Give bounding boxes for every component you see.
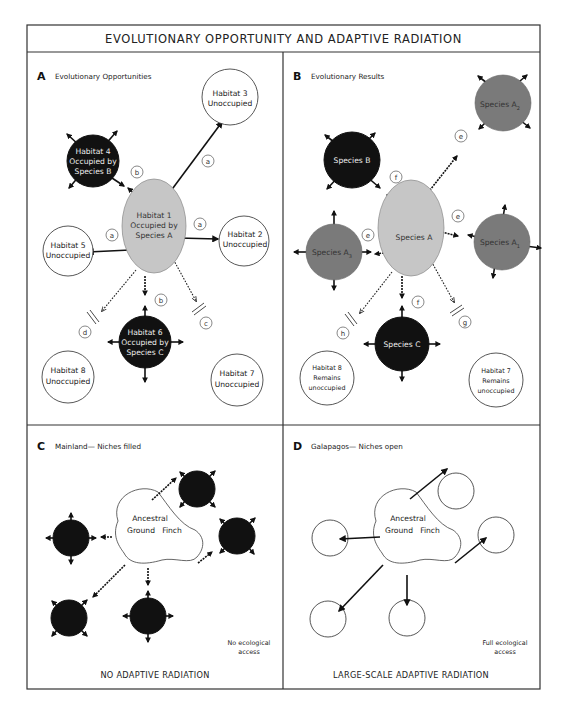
figure-title: EVOLUTIONARY OPPORTUNITY AND ADAPTIVE RA… (105, 32, 462, 46)
arrow-label-f-to-c: f (412, 296, 424, 308)
dashed-arrow-to-habitat8 (360, 272, 392, 313)
arrow-label-g-to-h7: g (459, 316, 471, 328)
panel-a: A Evolutionary Opportunities Habitat 1 O… (37, 69, 269, 406)
barrier-g (450, 305, 464, 316)
access-note: No ecological (228, 639, 271, 647)
panel-c: C Mainland— Niches filled Ancestral Grou… (37, 440, 271, 680)
arrow-to-niche-bottom-left (93, 565, 125, 597)
svg-text:g: g (463, 319, 467, 327)
habitat-8-status: Unoccupied (46, 377, 91, 386)
access-note-line2: access (494, 648, 516, 656)
arrow-to-habitat5 (88, 250, 130, 252)
svg-text:b: b (135, 169, 140, 177)
habitat-1-label-line3: Species A (136, 231, 174, 240)
habitat-8-status-line1: Remains (313, 374, 341, 382)
arrow-to-niche-top (152, 478, 176, 500)
habitat-7-status-line1: Remains (482, 377, 510, 385)
habitat-8-label: Habitat 8 (312, 364, 342, 372)
svg-text:c: c (204, 320, 208, 328)
habitat-8-label: Habitat 8 (50, 366, 85, 375)
svg-text:a: a (110, 232, 114, 240)
svg-text:e: e (366, 232, 370, 240)
habitat-8-status-line2: unoccupied (309, 384, 346, 392)
arrow-label-b-to-h4: b (131, 166, 143, 178)
niche-open-top (438, 473, 474, 509)
species-a2-label: Species A2 (480, 100, 520, 111)
niche-filled-right (219, 518, 255, 554)
diagram-canvas: EVOLUTIONARY OPPORTUNITY AND ADAPTIVE RA… (0, 0, 564, 719)
panel-d: D Galapagos— Niches open Ancestral Groun… (293, 440, 528, 680)
ancestral-finch-label: Ancestral (390, 514, 426, 523)
niche-open-bottom (389, 600, 425, 636)
habitat-6-label-line2: Occupied by (121, 338, 169, 347)
access-note-line2: access (238, 648, 260, 656)
species-a1-label: Species A1 (480, 238, 520, 249)
species-c-label: Species C (384, 340, 421, 349)
ancestral-finch-label-line2: Ground (127, 526, 155, 535)
ancestral-finch-label-line3: Finch (420, 526, 440, 535)
arrow-label-b-to-h6: b (155, 294, 167, 306)
dashed-arrow-to-habitat7 (172, 257, 196, 301)
niche-filled-left (46, 513, 96, 564)
niche-filled-bottom (123, 591, 173, 642)
panel-c-heading: Mainland— Niches filled (55, 442, 141, 451)
niche-open-right (478, 517, 514, 553)
svg-text:b: b (159, 297, 164, 305)
frame (27, 25, 540, 689)
habitat-4-label: Habitat 4 (75, 147, 110, 156)
species-a-node (378, 180, 444, 276)
habitat-1-label-line2: Occupied by (130, 221, 178, 230)
habitat-7-status: Unoccupied (215, 380, 260, 389)
species-a3-label: Species A3 (312, 248, 352, 259)
ancestral-finch-label: Ancestral (132, 514, 168, 523)
habitat-4-label-line3: Species B (75, 167, 112, 176)
barrier-c (192, 303, 206, 315)
niche-filled-top (179, 471, 215, 507)
arrow-label-d-to-h8: d (79, 326, 91, 338)
habitat-2-label: Habitat 2 (227, 230, 262, 239)
panel-d-letter: D (293, 440, 302, 453)
arrow-label-h-to-h8: h (337, 327, 349, 339)
arrow-label-e-to-a1: e (452, 210, 464, 222)
habitat-4-label-line2: Occupied by (69, 157, 117, 166)
habitat-3-status: Unoccupied (208, 99, 253, 108)
ancestral-finch-label-line2: Ground (385, 526, 413, 535)
species-b-label: Species B (334, 156, 371, 165)
panel-b-heading: Evolutionary Results (311, 72, 385, 81)
panel-c-footer: NO ADAPTIVE RADIATION (100, 670, 209, 680)
niche-filled-bottom-left (51, 600, 87, 636)
panel-d-heading: Galapagos— Niches open (311, 442, 403, 451)
habitat-7-status-line2: unoccupied (478, 387, 515, 395)
arrow-to-niche-bottom-left (339, 565, 383, 611)
habitat-6-label: Habitat 6 (127, 328, 162, 337)
barrier-h (345, 312, 357, 326)
habitat-7-label: Habitat 7 (219, 369, 254, 378)
habitat-5-label: Habitat 5 (50, 241, 85, 250)
svg-text:a: a (206, 158, 210, 166)
svg-text:a: a (198, 221, 202, 229)
panel-a-letter: A (37, 70, 46, 83)
panel-a-heading: Evolutionary Opportunities (55, 72, 152, 81)
panel-b-letter: B (293, 70, 301, 83)
panel-c-letter: C (37, 440, 45, 453)
dashed-arrow-to-habitat7 (430, 259, 454, 302)
habitat-7-label: Habitat 7 (481, 367, 511, 375)
barrier-d (87, 310, 99, 324)
ancestral-finch-label-line3: Finch (162, 526, 182, 535)
habitat-5-status: Unoccupied (46, 251, 91, 260)
svg-text:e: e (459, 133, 463, 141)
svg-text:h: h (341, 330, 345, 338)
arrow-label-f-to-b: f (390, 171, 402, 183)
svg-text:e: e (456, 213, 460, 221)
arrow-label-a-to-h2: a (194, 218, 206, 230)
dashed-arrow-to-habitat8 (102, 270, 136, 311)
panel-b: B Evolutionary Results Species A Specie (293, 70, 541, 407)
arrow-label-a-to-h5: a (106, 229, 118, 241)
arrow-label-c-to-h7: c (200, 317, 212, 329)
arrow-label-a-to-h3: a (202, 155, 214, 167)
habitat-2-status: Unoccupied (223, 240, 268, 249)
svg-text:d: d (83, 329, 87, 337)
habitat-6-label-line3: Species C (127, 348, 164, 357)
habitat-3-label: Habitat 3 (212, 89, 247, 98)
access-note: Full ecological (482, 639, 527, 647)
